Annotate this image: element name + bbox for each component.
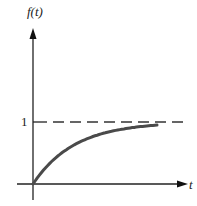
tick-label-one: 1	[21, 114, 28, 130]
y-axis-arrow-icon	[30, 28, 37, 39]
x-axis-label: t	[189, 177, 193, 193]
f-t-curve	[33, 125, 157, 184]
y-axis-label: f(t)	[27, 4, 43, 20]
x-axis-arrow-icon	[177, 181, 188, 188]
chart-canvas	[0, 0, 197, 206]
